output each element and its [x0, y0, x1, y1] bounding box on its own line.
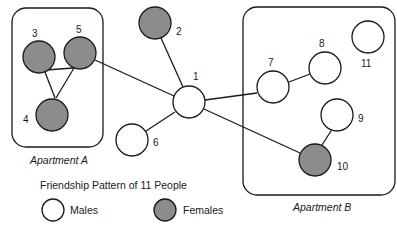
legend-female-icon	[154, 199, 176, 221]
node-1	[173, 86, 205, 118]
node-label-7: 7	[268, 57, 274, 68]
node-3	[23, 41, 55, 73]
diagram-title: Friendship Pattern of 11 People	[40, 179, 187, 191]
legend-male-icon	[42, 199, 64, 221]
node-label-6: 6	[153, 137, 159, 148]
edge-9-10	[322, 131, 331, 145]
node-6	[116, 124, 148, 156]
node-label-8: 8	[319, 38, 325, 49]
edge-2-1	[161, 38, 183, 87]
edge-1-10	[204, 109, 300, 153]
legend-female-label: Females	[183, 204, 223, 216]
node-label-5: 5	[76, 24, 82, 35]
node-label-4: 4	[23, 114, 29, 125]
node-label-1: 1	[193, 71, 199, 82]
node-4	[36, 99, 68, 131]
node-label-10: 10	[337, 161, 349, 172]
legend-male-label: Males	[70, 204, 98, 216]
apartment-a-label: Apartment A	[29, 154, 88, 166]
node-9	[321, 99, 353, 131]
node-10	[299, 144, 331, 176]
friendship-diagram: 1 2 3 4 5 6 7 8 9 10 11 Apartment A Apar…	[0, 0, 397, 228]
edge-7-8	[289, 74, 310, 82]
node-5	[64, 37, 96, 69]
node-2	[139, 7, 171, 39]
node-11	[352, 21, 384, 53]
node-label-9: 9	[358, 113, 364, 124]
edge-6-1	[146, 112, 175, 131]
apartment-b-label: Apartment B	[292, 201, 351, 213]
node-7	[257, 71, 289, 103]
edge-5-4	[56, 68, 74, 98]
node-label-3: 3	[32, 28, 38, 39]
legend: Males Females	[42, 199, 223, 221]
node-8	[309, 52, 341, 84]
edge-1-7	[205, 93, 257, 100]
node-label-2: 2	[176, 26, 182, 37]
node-label-11: 11	[361, 58, 372, 69]
edge-3-4	[45, 72, 55, 98]
edge-5-1	[95, 60, 174, 96]
